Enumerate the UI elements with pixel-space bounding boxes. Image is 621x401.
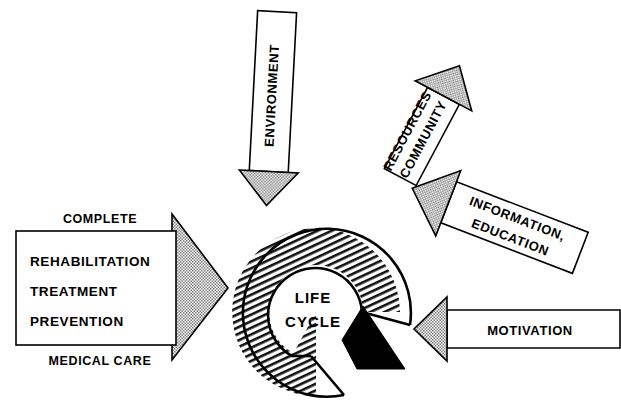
caption-complete: COMPLETE <box>63 212 137 226</box>
left-item-prevention: PREVENTION <box>30 314 124 329</box>
left-item-treatment: TREATMENT <box>30 284 118 299</box>
life-cycle-label-line2: CYCLE <box>285 313 341 330</box>
diagram-canvas: LIFE CYCLE COMPLETE REHABILITATION TREAT… <box>0 0 621 401</box>
life-cycle-diagram: LIFE CYCLE COMPLETE REHABILITATION TREAT… <box>0 0 621 401</box>
motivation-label: MOTIVATION <box>487 323 573 338</box>
caption-medical-care: MEDICAL CARE <box>49 354 152 368</box>
life-cycle-label-line1: LIFE <box>295 289 332 306</box>
left-item-rehabilitation: REHABILITATION <box>30 254 150 269</box>
